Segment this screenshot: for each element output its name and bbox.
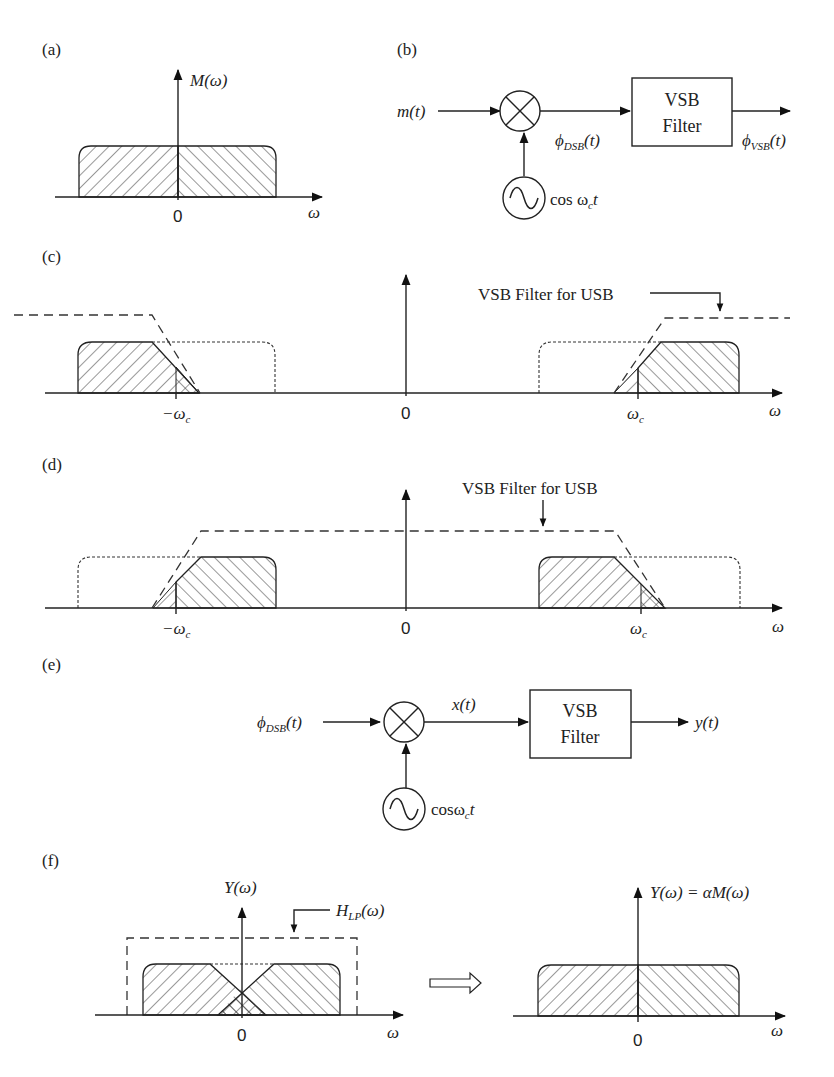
y-axis-label: Y(ω): [224, 878, 257, 897]
input-signal-label: m(t): [397, 102, 426, 121]
output-label: y(t): [693, 713, 719, 732]
vestige-right: [614, 368, 638, 393]
x-axis-label: ω: [771, 1021, 783, 1040]
recovered-left-half: [538, 965, 638, 1016]
mixer-output-label: x(t): [451, 695, 476, 714]
filter-annotation: VSB Filter for USB: [462, 479, 598, 498]
panel-e-demodulator: (e) ϕDSB(t) x(t) VSB Filter y(t) cosωct: [42, 655, 719, 830]
annotation-arrow: [650, 293, 720, 311]
multiplier-icon: [500, 91, 540, 131]
vestige-left: [153, 582, 176, 608]
x-axis-label: ω: [308, 203, 320, 222]
carrier-label: cos ωct: [550, 190, 599, 211]
panel-e-label: (e): [42, 655, 61, 674]
implies-arrow-icon: [430, 973, 481, 993]
vestige-left: [176, 367, 199, 393]
vsb-output-label: ϕVSB(t): [742, 131, 786, 152]
x-axis-label: ω: [769, 401, 781, 420]
filter-label-line2: Filter: [663, 116, 702, 136]
vestige-right: [641, 584, 665, 608]
panel-d-spectrum: (d) −ωc ωc 0 ω VSB Filter for USB: [42, 455, 784, 640]
panel-b-label: (b): [397, 40, 417, 59]
carrier-label: cosωct: [431, 800, 476, 821]
pos-carrier-label: ωc: [627, 404, 644, 425]
panel-d-label: (d): [42, 455, 62, 474]
pos-carrier-label: ωc: [630, 619, 647, 640]
panel-b-modulator: (b) m(t) ϕDSB(t) VSB Filter ϕVSB(t) cos …: [397, 40, 790, 219]
usb-shape-left: [176, 557, 276, 608]
panel-a-label: (a): [42, 40, 61, 59]
filter-label-line1: VSB: [562, 701, 597, 721]
panel-f-right-spectrum: Y(ω) = αM(ω) 0 ω: [513, 883, 785, 1050]
input-signal-label: ϕDSB(t): [257, 713, 302, 734]
origin-label: 0: [633, 1031, 642, 1050]
filter-label-line2: Filter: [561, 727, 600, 747]
multiplier-icon: [384, 702, 424, 742]
usb-shape-right: [638, 342, 739, 393]
filter-label-line1: VSB: [664, 90, 699, 110]
y-axis-label: Y(ω) = αM(ω): [650, 883, 750, 902]
panel-c-spectrum: (c) −ωc ωc 0 ω VSB Filter for USB: [14, 247, 790, 425]
filter-annotation: VSB Filter for USB: [478, 285, 614, 304]
x-axis-label: ω: [772, 617, 784, 636]
neg-carrier-label: −ωc: [162, 404, 190, 425]
panel-f-left-spectrum: (f) Y(ω) HLP(ω) 0 ω: [42, 851, 403, 1045]
vsb-figure: (a) M(ω) 0 ω (b) m(t) ϕDSB(t) VSB Filter…: [0, 0, 834, 1077]
spectrum-left-half: [79, 146, 178, 197]
oscillator-icon: [383, 788, 425, 830]
spectrum-right-half: [178, 146, 276, 197]
oscillator-icon: [503, 177, 545, 219]
recovered-right-half: [638, 965, 739, 1016]
lowpass-label: HLP(ω): [335, 901, 385, 922]
lowpass-annotation-arrow: [294, 910, 330, 932]
panel-a-spectrum: (a) M(ω) 0 ω: [42, 40, 322, 226]
origin-label: 0: [401, 404, 410, 423]
x-axis-label: ω: [387, 1023, 399, 1042]
y-axis-label: M(ω): [189, 71, 228, 90]
panel-c-label: (c): [42, 247, 61, 266]
panel-f-label: (f): [42, 851, 59, 870]
neg-carrier-label: −ωc: [162, 619, 190, 640]
dsb-signal-label: ϕDSB(t): [555, 131, 600, 152]
origin-label: 0: [173, 207, 182, 226]
origin-label: 0: [237, 1026, 246, 1045]
origin-label: 0: [401, 619, 410, 638]
